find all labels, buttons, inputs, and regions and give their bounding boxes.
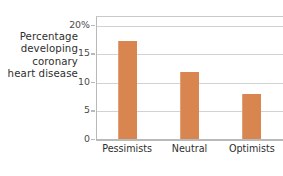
y-axis-tick-mark — [91, 25, 95, 26]
y-axis-tick-label: 15 — [60, 48, 90, 57]
bar — [118, 41, 137, 139]
bar — [242, 94, 261, 139]
y-axis-tick-mark — [91, 53, 95, 54]
x-axis-tick-label: Neutral — [172, 144, 207, 155]
x-axis-tick-labels: PessimistsNeutralOptimists — [96, 144, 283, 164]
y-axis-tick-label: 0 — [60, 134, 90, 143]
x-axis-baseline — [96, 139, 283, 141]
y-axis-tick-label: 10 — [60, 77, 90, 86]
x-axis-tick-label: Pessimists — [102, 144, 152, 155]
y-axis-tick-mark — [91, 110, 95, 111]
y-axis-tick-mark — [91, 139, 95, 140]
y-axis-tick-label: 5 — [60, 105, 90, 114]
bar-chart-figure: Percentage developing coronary heart dis… — [0, 0, 283, 176]
y-axis-tick-mark — [91, 82, 95, 83]
x-axis-tick-label: Optimists — [229, 144, 275, 155]
bar — [180, 72, 199, 140]
bars-container — [96, 16, 283, 139]
y-axis-tick-label: 20% — [60, 20, 90, 29]
y-axis-tick-labels: 05101520% — [58, 0, 90, 176]
